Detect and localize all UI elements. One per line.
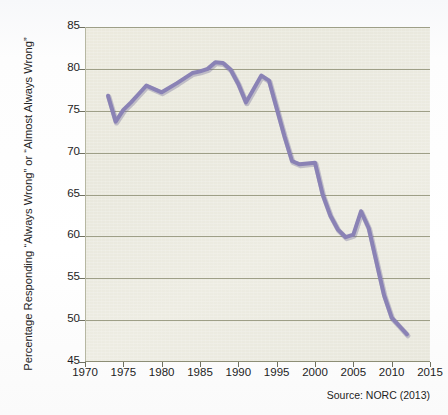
y-axis-tick-labels: 455055606570758085 <box>50 27 80 362</box>
cropped-title-strip: yearly average of responses on extramari… <box>0 0 448 11</box>
y-axis-tick-label: 70 <box>54 145 80 157</box>
x-axis-tick-labels: 1970197519801985199019952000200520102015 <box>85 366 430 384</box>
y-axis-tick-label: 75 <box>54 103 80 115</box>
chart-page: yearly average of responses on extramari… <box>0 0 448 415</box>
y-axis-tick-label: 65 <box>54 187 80 199</box>
source-note: Source: NORC (2013) <box>327 389 430 401</box>
data-series-line-shadow <box>109 63 408 335</box>
y-axis-tick-label: 50 <box>54 312 80 324</box>
y-axis-tick-label: 55 <box>54 270 80 282</box>
y-axis-title: Percentage Responding “Always Wrong” or … <box>22 24 34 384</box>
data-series-line <box>85 27 430 362</box>
y-axis-tick-label: 80 <box>54 61 80 73</box>
y-axis-tick-label: 45 <box>54 354 80 366</box>
y-axis-tick-label: 60 <box>54 228 80 240</box>
y-axis-tick-label: 85 <box>54 19 80 31</box>
plot-area <box>85 27 430 362</box>
data-series-line-path <box>108 62 407 334</box>
x-axis-tick-label: 2015 <box>407 366 448 378</box>
